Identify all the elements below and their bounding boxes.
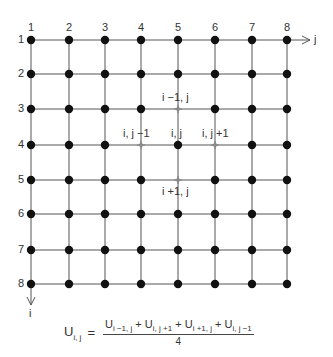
formula-operator: + <box>132 318 145 330</box>
grid-node <box>283 70 291 78</box>
formula-operator: + <box>212 318 225 330</box>
row-index-label: 1 <box>18 34 24 45</box>
formula-term: Ui −1, j <box>105 318 132 330</box>
grid-node <box>65 105 73 113</box>
grid-node <box>27 105 35 113</box>
grid-node <box>174 210 182 218</box>
grid-node <box>27 141 35 149</box>
grid-node <box>65 36 73 44</box>
grid-node <box>248 280 256 288</box>
formula-fraction: Ui −1, j + Ui, j +1 + Ui +1, j + Ui, j −… <box>103 318 254 347</box>
row-index-label: 8 <box>18 278 24 289</box>
grid-node <box>65 141 73 149</box>
grid-node <box>248 141 256 149</box>
grid-node <box>174 280 182 288</box>
formula-lhs: Ui, j <box>64 324 81 342</box>
neighbor-node <box>176 107 180 111</box>
formula-term: Ui, j −1 <box>225 318 252 330</box>
grid-node <box>65 176 73 184</box>
grid-node <box>248 105 256 113</box>
grid-node <box>174 36 182 44</box>
grid-node <box>137 210 145 218</box>
grid-node <box>65 280 73 288</box>
grid-node <box>211 36 219 44</box>
grid-node <box>101 141 109 149</box>
grid-node <box>211 176 219 184</box>
neighbor-node <box>139 143 143 147</box>
formula-denominator: 4 <box>176 336 182 347</box>
grid-node <box>65 70 73 78</box>
row-index-label: 5 <box>18 174 24 185</box>
grid-node <box>248 210 256 218</box>
neighbor-label-left: i, j −1 <box>123 128 150 139</box>
grid-node <box>101 105 109 113</box>
grid-node <box>101 246 109 254</box>
grid-node <box>211 105 219 113</box>
column-index-label: 6 <box>212 22 218 33</box>
row-index-label: 3 <box>18 103 24 114</box>
grid-node <box>283 36 291 44</box>
grid-node <box>27 36 35 44</box>
grid-node <box>174 70 182 78</box>
column-index-label: 1 <box>28 22 34 33</box>
grid-node <box>211 246 219 254</box>
laplace-averaging-formula: Ui, j = Ui −1, j + Ui, j +1 + Ui +1, j +… <box>64 318 254 347</box>
grid-node <box>283 105 291 113</box>
formula-numerator: Ui −1, j + Ui, j +1 + Ui +1, j + Ui, j −… <box>103 318 254 335</box>
grid-node <box>283 246 291 254</box>
grid-node <box>137 36 145 44</box>
finite-difference-grid <box>0 0 333 357</box>
column-index-label: 4 <box>138 22 144 33</box>
row-index-label: 6 <box>18 208 24 219</box>
grid-node <box>211 70 219 78</box>
formula-operator: + <box>172 318 185 330</box>
grid-node <box>174 141 182 149</box>
formula-term: Ui, j +1 <box>145 318 172 330</box>
grid-node <box>27 280 35 288</box>
formula-equals: = <box>87 325 95 340</box>
grid-node <box>101 280 109 288</box>
column-index-label: 5 <box>175 22 181 33</box>
column-index-label: 2 <box>66 22 72 33</box>
grid-node <box>27 210 35 218</box>
grid-node <box>283 141 291 149</box>
neighbor-node <box>213 143 217 147</box>
grid-node <box>137 105 145 113</box>
neighbor-label-right: i, j +1 <box>202 128 229 139</box>
grid-node <box>248 176 256 184</box>
grid-node <box>101 70 109 78</box>
grid-node <box>248 70 256 78</box>
grid-node <box>65 210 73 218</box>
grid-node <box>101 176 109 184</box>
grid-node <box>283 210 291 218</box>
row-index-label: 7 <box>18 244 24 255</box>
grid-node <box>248 36 256 44</box>
neighbor-label-up: i −1, j <box>162 92 189 103</box>
grid-node <box>248 246 256 254</box>
grid-node <box>137 246 145 254</box>
formula-term: Ui +1, j <box>185 318 212 330</box>
grid-node <box>283 280 291 288</box>
neighbor-node <box>176 178 180 182</box>
grid-node <box>65 246 73 254</box>
grid-node <box>211 210 219 218</box>
column-index-label: 3 <box>102 22 108 33</box>
j-axis-label: j <box>314 34 316 45</box>
grid-node <box>137 70 145 78</box>
grid-node <box>101 36 109 44</box>
row-index-label: 4 <box>18 139 24 150</box>
grid-node <box>27 246 35 254</box>
grid-node <box>27 176 35 184</box>
i-axis-label: i <box>29 308 31 319</box>
center-node-label: i, j <box>171 128 182 139</box>
neighbor-label-down: i +1, j <box>162 186 189 197</box>
grid-node <box>174 246 182 254</box>
column-index-label: 8 <box>284 22 290 33</box>
grid-node <box>27 70 35 78</box>
row-index-label: 2 <box>18 68 24 79</box>
grid-node <box>101 210 109 218</box>
grid-node <box>211 280 219 288</box>
grid-node <box>137 280 145 288</box>
column-index-label: 7 <box>249 22 255 33</box>
grid-node <box>283 176 291 184</box>
